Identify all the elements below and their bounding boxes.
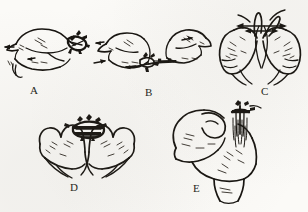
panel-label-e: E xyxy=(193,183,200,194)
figure-canvas: A xyxy=(0,0,308,212)
panel-e-drawing xyxy=(162,100,270,208)
panel-b xyxy=(96,20,214,86)
strand-bundle-e xyxy=(232,100,261,147)
raised-fingers-c xyxy=(238,10,285,68)
upper-hand-e xyxy=(173,110,225,162)
right-hand-b xyxy=(166,30,211,63)
panel-a-drawing xyxy=(2,18,110,86)
panel-d-drawing xyxy=(32,112,142,182)
panel-label-c: C xyxy=(261,86,269,97)
panel-c-drawing xyxy=(214,6,306,90)
left-hand-a xyxy=(7,29,75,77)
arrow-group-a xyxy=(4,45,106,64)
panel-a xyxy=(2,18,110,86)
panel-c xyxy=(214,6,306,90)
panel-label-d: D xyxy=(70,182,78,193)
left-hand-c xyxy=(220,28,257,85)
knot-cluster-d xyxy=(64,114,107,141)
panel-label-b: B xyxy=(145,87,153,98)
panel-e xyxy=(162,100,270,208)
panel-b-drawing xyxy=(96,20,214,86)
left-hand-b xyxy=(98,33,150,68)
panel-label-a: A xyxy=(30,85,38,96)
knot-cluster-a xyxy=(68,30,90,54)
panel-d xyxy=(32,112,142,182)
